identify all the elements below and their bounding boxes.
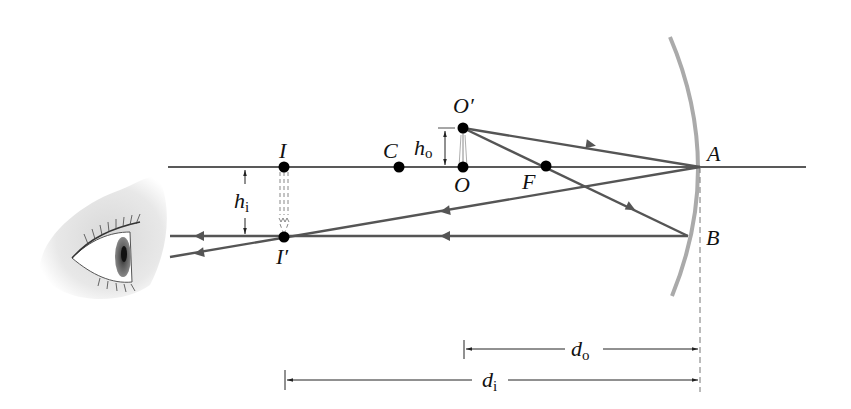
label-image-base: I (278, 138, 288, 163)
point-image-top (279, 232, 290, 243)
point-object-top (458, 123, 469, 134)
point-center (394, 162, 405, 173)
light-rays (170, 128, 700, 257)
label-vertex-a: A (705, 141, 721, 166)
label-point-b: B (706, 225, 719, 250)
label-focus: F (521, 169, 536, 194)
label-h-o: ho (414, 135, 433, 161)
label-object-base: O (454, 172, 470, 197)
mirror-ray-diagram: I I′ C O′ O F A B ho hi do di (0, 0, 851, 409)
label-d-i: di (482, 367, 497, 394)
point-object-base (458, 162, 469, 173)
point-image-base (279, 162, 290, 173)
label-image-top: I′ (275, 244, 289, 269)
label-h-i: hi (234, 188, 249, 215)
label-d-o: do (571, 336, 590, 363)
label-center: C (383, 138, 398, 163)
h-o-dimension (438, 128, 455, 165)
point-focus (541, 161, 552, 172)
label-object-top: O′ (453, 93, 475, 118)
image-arrow-virtual (279, 172, 289, 232)
eye-icon (40, 177, 167, 299)
